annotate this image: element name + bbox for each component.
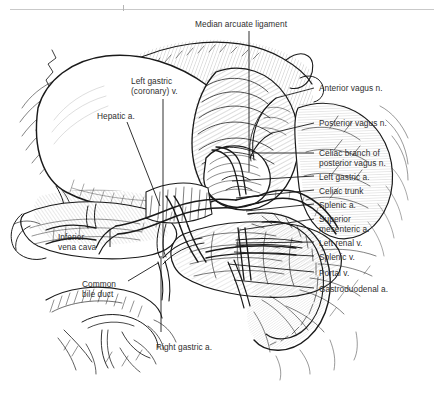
label-left-gastric-coronary-v: Left gastric (coronary) v. <box>131 76 178 96</box>
label-hepatic-a: Hepatic a. <box>97 111 135 121</box>
leader-common-bile-duct <box>128 263 158 281</box>
figure-page: Median arcuate ligament Left gastric (co… <box>0 0 443 403</box>
anatomical-illustration <box>0 0 443 403</box>
label-right-gastric-a: Right gastric a. <box>156 342 212 352</box>
label-gastroduodenal-a: Gastroduodenal a. <box>319 284 388 294</box>
label-left-gastric-a: Left gastric a. <box>319 172 370 182</box>
label-left-renal-v: Left renal v. <box>319 238 362 248</box>
label-splenic-a: Splenic a. <box>319 200 356 210</box>
label-anterior-vagus-n: Anterior vagus n. <box>319 83 383 93</box>
label-celiac-trunk: Celiac trunk <box>319 186 363 196</box>
label-superior-mesenteric-a: Superior mesenteric a. <box>319 214 369 234</box>
label-posterior-vagus-n: Posterior vagus n. <box>319 118 387 128</box>
label-common-bile-duct: Common bile duct <box>82 279 116 299</box>
label-median-arcuate-ligament: Median arcuate ligament <box>195 19 287 29</box>
label-portal-v: Portal v. <box>319 268 349 278</box>
label-inferior-vena-cava: Inferior vena cava <box>58 232 96 252</box>
label-celiac-branch-of-posterior-vagus-n: Celiac branch of posterior vagus n. <box>319 148 386 168</box>
label-splenic-v: Splenic v. <box>319 252 355 262</box>
